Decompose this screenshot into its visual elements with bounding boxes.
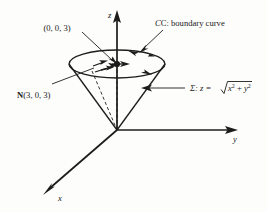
- leader-point-label: [82, 32, 112, 60]
- boundary-curve-label: CC: boundary curve: [155, 18, 225, 28]
- z-axis-label: z: [107, 10, 112, 20]
- x-axis-label: x: [57, 193, 62, 203]
- normal-vector-label-coords: (3, 0, 3): [23, 90, 50, 100]
- boundary-arrow-front: [141, 69, 152, 75]
- normal-vector-label: N(3, 0, 3): [17, 90, 51, 100]
- radicand-plus: +: [235, 83, 244, 93]
- leader-curve-label: [144, 30, 163, 48]
- cone-right-edge: [117, 64, 165, 130]
- y-axis-label: y: [232, 134, 237, 144]
- boundary-curve-label-text: C: boundary curve: [161, 18, 225, 28]
- cone-diagram: (0, 0, 3) CC: boundary curve N(3, 0, 3) …: [0, 0, 267, 212]
- surface-label: Σ: z =: [189, 83, 211, 93]
- axes-group: [43, 10, 238, 195]
- figure-page: (0, 0, 3) CC: boundary curve N(3, 0, 3) …: [0, 0, 267, 212]
- radicand-y-exponent: 2: [248, 83, 251, 89]
- normal-vector-2-head: [99, 60, 108, 65]
- normal-vectors-group: [93, 60, 130, 72]
- point-label: (0, 0, 3): [43, 23, 70, 33]
- surface-label-eq: : z =: [195, 83, 211, 93]
- x-axis-line: [50, 130, 117, 188]
- radicand: x2 + y2: [227, 83, 251, 93]
- leader-lines-group: [52, 30, 185, 92]
